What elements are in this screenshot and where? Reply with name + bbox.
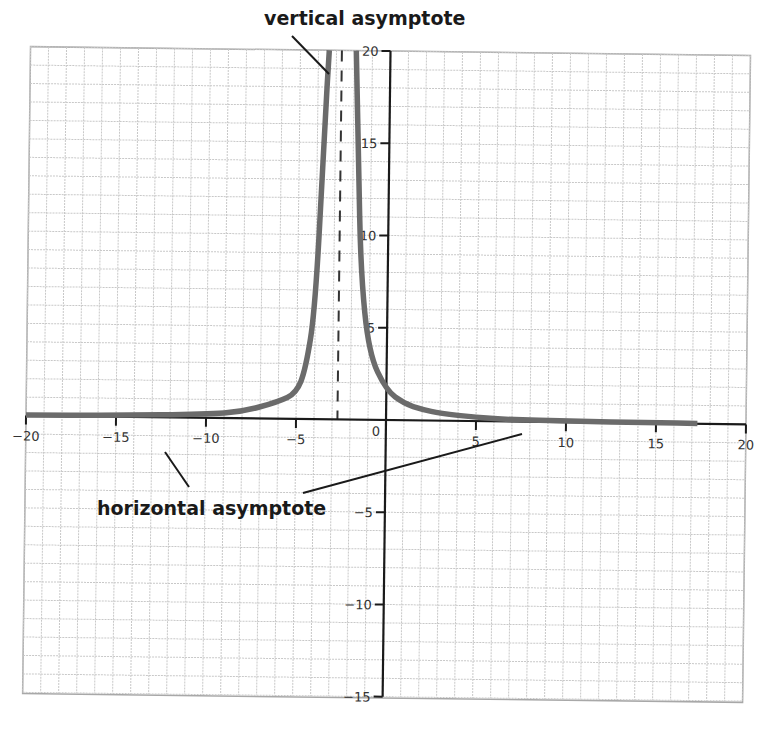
curve-left-branch	[26, 47, 329, 419]
grid-line-vertical	[545, 53, 553, 699]
grid-line-vertical	[509, 53, 517, 699]
grid-line-vertical	[725, 55, 733, 701]
horizontal-asymptote-pointer-left	[165, 452, 189, 487]
plot-area: −20−15−10−55101520 −15−10−55101520 0	[9, 39, 759, 709]
grid-line-vertical	[527, 53, 535, 699]
rational-function-graph: −20−15−10−55101520 −15−10−55101520 0 ver…	[0, 0, 764, 731]
grid-line-vertical	[401, 51, 409, 697]
grid-line-vertical	[311, 50, 319, 696]
x-tick-label: −5	[286, 432, 305, 447]
horizontal-asymptote-label: horizontal asymptote	[97, 497, 326, 519]
horizontal-asymptote-pointer-right	[303, 434, 522, 493]
y-tick-label: 15	[361, 136, 378, 151]
grid-line-vertical	[671, 55, 679, 701]
y-axis	[383, 51, 391, 697]
grid-line-vertical	[599, 54, 607, 700]
grid-line-vertical	[437, 52, 445, 698]
grid-line-vertical	[59, 47, 67, 693]
grid-line-vertical	[257, 49, 265, 695]
grid-line-vertical	[653, 54, 661, 700]
grid-line-vertical	[455, 52, 463, 698]
grid-line-vertical	[329, 50, 337, 696]
grid-line-vertical	[41, 47, 49, 693]
x-tick-label: −15	[102, 430, 130, 445]
x-tick-label: −10	[192, 431, 220, 446]
vertical-asymptote-label: vertical asymptote	[264, 7, 465, 29]
y-tick-label: −10	[344, 597, 372, 612]
grid-line-vertical	[707, 55, 715, 701]
origin-label: 0	[372, 424, 380, 439]
grid-line-vertical	[113, 48, 121, 694]
grid-line-vertical	[239, 49, 247, 695]
grid-line-vertical	[473, 52, 481, 698]
grid-line-vertical	[131, 48, 139, 694]
grid-line-vertical	[617, 54, 625, 700]
grid-line-vertical	[95, 48, 103, 694]
grid-line-vertical	[563, 53, 571, 699]
x-tick-label: 20	[737, 437, 754, 452]
grid-line-vertical	[491, 52, 499, 698]
grid-line-vertical	[689, 55, 697, 701]
x-tick-label: 10	[557, 435, 574, 450]
x-tick-label: −20	[12, 428, 40, 443]
grid-line-vertical	[221, 49, 229, 695]
y-tick-label: −15	[343, 689, 371, 704]
grid-line-vertical	[167, 48, 175, 694]
grid-line-vertical	[77, 47, 85, 693]
grid-line-vertical	[149, 48, 157, 694]
grid-line-vertical	[581, 53, 589, 699]
grid-line-vertical	[203, 49, 211, 695]
grid-line-vertical	[275, 50, 283, 696]
x-tick-label: 15	[647, 436, 664, 451]
grid-line-vertical	[293, 50, 301, 696]
grid-line-vertical	[185, 49, 193, 695]
y-tick-label: 20	[362, 44, 379, 59]
grid-line-vertical	[419, 51, 427, 697]
y-tick-label: −5	[354, 505, 373, 520]
grid-line-vertical	[635, 54, 643, 700]
